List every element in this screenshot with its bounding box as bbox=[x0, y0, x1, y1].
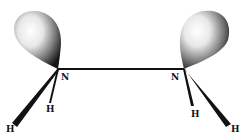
atom-label-h2: H bbox=[6, 124, 15, 134]
atom-label-n2: N bbox=[171, 72, 179, 82]
hydrazine-orbital-diagram: N N H H H H bbox=[0, 0, 243, 140]
atom-label-h3: H bbox=[191, 109, 200, 119]
left-lone-pair-lobe bbox=[14, 11, 61, 69]
right-lone-pair-lobe bbox=[180, 11, 229, 69]
atom-label-h4: H bbox=[231, 124, 240, 134]
n2-h3-bond bbox=[183, 69, 194, 106]
atom-label-h1: H bbox=[46, 104, 55, 114]
atom-label-n1: N bbox=[61, 72, 69, 82]
